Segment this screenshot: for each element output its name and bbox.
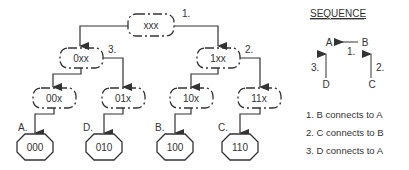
leaf-letter-b: B. [155, 122, 164, 133]
seq-step-1: 1. B connects to A [306, 109, 383, 120]
edge-0xx-01x [103, 58, 123, 87]
leaf-letter-a: A. [18, 122, 27, 133]
leaf-010-label: 010 [96, 142, 113, 153]
seq-arrow-label-2: 2. [376, 62, 384, 73]
edge-01x-010 [104, 108, 123, 133]
node-1xx-label: 1xx [210, 53, 226, 64]
seq-node-d: D [322, 79, 329, 90]
step-label-0xx: 3. [108, 44, 116, 55]
edge-10x-100 [175, 108, 191, 133]
leaf-000-label: 000 [27, 142, 44, 153]
sequence-panel: SEQUENCE A B D C 1. 3. 2. 1. B connects … [306, 8, 384, 156]
edge-1xx-11x [240, 58, 260, 87]
node-10x-label: 10x [183, 93, 199, 104]
step-label-root: 1. [182, 8, 190, 19]
node-0xx-label: 0xx [73, 53, 89, 64]
seq-step-3: 3. D connects to A [306, 145, 384, 156]
sequence-title: SEQUENCE [310, 8, 366, 19]
node-11x-label: 11x [251, 93, 266, 104]
node-00x-label: 00x [46, 93, 62, 104]
seq-node-a: A [326, 37, 333, 48]
leaf-100-label: 100 [167, 142, 184, 153]
seq-arrow-label-3: 3. [311, 62, 319, 73]
leaf-nodes [17, 134, 258, 160]
seq-node-c: C [368, 79, 375, 90]
edge-11x-110 [240, 108, 260, 133]
seq-node-b: B [362, 37, 369, 48]
edge-root-1xx [174, 26, 218, 46]
step-label-1xx: 2. [245, 44, 253, 55]
edge-1xx-10x [191, 68, 218, 87]
leaf-110-label: 110 [232, 142, 248, 153]
node-01x-label: 01x [115, 93, 131, 104]
connectors [35, 26, 260, 133]
seq-step-2: 2. C connects to B [306, 127, 384, 138]
leaf-letter-d: D. [83, 122, 93, 133]
edge-00x-000 [35, 108, 54, 133]
leaf-letter-c: C. [218, 122, 228, 133]
edge-root-0xx [80, 26, 128, 46]
seq-arrow-label-1: 1. [347, 46, 355, 57]
diagram-canvas: xxx 0xx 1xx 00x 01x 10x 11x 000 010 100 … [0, 0, 409, 170]
edge-0xx-00x [53, 68, 81, 87]
node-root-label: xxx [144, 20, 159, 31]
